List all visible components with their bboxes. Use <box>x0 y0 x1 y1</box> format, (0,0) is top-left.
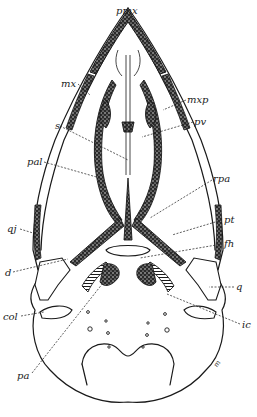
columella-right <box>184 306 216 319</box>
columella-left <box>40 306 72 319</box>
jugal-right <box>215 205 222 260</box>
label-pa: pa <box>17 371 29 381</box>
pterygoid-right <box>132 218 186 266</box>
label-mx: mx <box>61 79 76 89</box>
basitemporal-right <box>137 264 156 286</box>
label-pal: pal <box>27 157 43 167</box>
palatine-left <box>94 80 122 225</box>
label-ic: ic <box>242 320 251 330</box>
braincase-outline <box>31 276 226 402</box>
leader-ic <box>167 294 240 324</box>
label-pt: pt <box>224 215 234 225</box>
label-d: d <box>5 268 11 278</box>
leader-fh <box>140 244 222 258</box>
premaxilla <box>90 10 166 74</box>
label-mxp: mxp <box>187 95 209 105</box>
pterygoid-left <box>70 218 124 266</box>
foramen-magnum <box>82 344 174 385</box>
label-s: s <box>55 121 60 131</box>
label-col: col <box>3 312 18 322</box>
basitemporal-left <box>100 264 119 286</box>
leader-rpa <box>150 180 212 218</box>
basisphenoid <box>106 246 150 257</box>
label-fh: fh <box>224 239 234 249</box>
label-pmx: pmx <box>116 6 138 16</box>
quadrate-left <box>35 258 70 300</box>
skull-diagram <box>0 0 257 417</box>
jugal-left <box>34 205 41 260</box>
maxilla-right <box>162 74 190 130</box>
quadrate-right <box>186 258 221 300</box>
label-rpa: rpa <box>213 174 230 184</box>
label-q: q <box>236 282 242 292</box>
label-pv: pv <box>194 117 206 127</box>
vomer <box>122 122 134 132</box>
label-qj: qj <box>7 224 17 234</box>
palatine-right <box>134 80 162 225</box>
rostrum-parasphenoid <box>124 178 132 240</box>
leader-qj <box>20 229 33 233</box>
